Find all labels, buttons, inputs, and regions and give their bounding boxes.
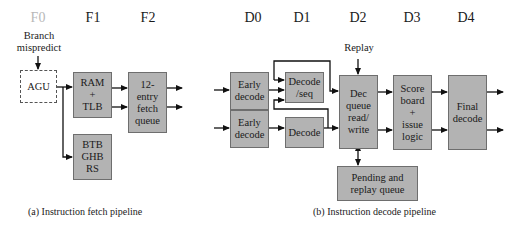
- btb-ghb-rs-block: BTB GHB RS: [73, 134, 112, 180]
- fetch-queue-block: 12- entry fetch queue: [128, 72, 167, 133]
- fetch-pipeline-caption: (a) Instruction fetch pipeline: [28, 206, 142, 217]
- early-decode-block-1: Early decode: [230, 72, 269, 110]
- decode-seq-block: Decode /seq: [285, 72, 324, 103]
- final-decode-block: Final decode: [448, 75, 487, 150]
- decode-pipeline-caption: (b) Instruction decode pipeline: [313, 206, 436, 217]
- agu-block: AGU: [20, 70, 57, 103]
- ram-tlb-block: RAM + TLB: [73, 72, 112, 118]
- pending-replay-queue-block: Pending and replay queue: [337, 166, 418, 201]
- dec-queue-block: Dec queue read/ write: [339, 75, 378, 149]
- decode-block: Decode: [285, 117, 324, 148]
- scoreboard-block: Score board + issue logic: [393, 75, 432, 150]
- early-decode-block-2: Early decode: [230, 110, 269, 148]
